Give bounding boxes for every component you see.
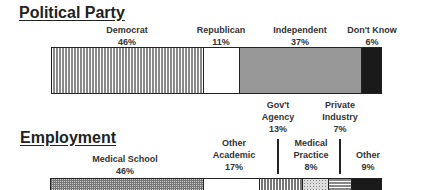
political-party-bar: [51, 47, 382, 94]
govt-agency-segment: [260, 179, 303, 190]
political-party-title: Political Party: [19, 4, 125, 22]
medical-practice-label: Medical Practice 8%: [293, 137, 328, 173]
medical-practice-segment: [303, 179, 329, 190]
private-industry-label: Private Industry 7%: [322, 99, 358, 135]
private-industry-segment: [329, 179, 352, 190]
dont-know-label: Don't Know 6%: [347, 24, 397, 48]
medical-school-label: Medical School 46%: [92, 153, 158, 177]
other-academic-label: Other Academic 17%: [213, 137, 256, 173]
employment-title: Employment: [20, 129, 116, 147]
democrat-segment: [52, 48, 204, 93]
medical-school-segment: [51, 179, 204, 190]
other-label: Other 9%: [356, 149, 380, 173]
republican-label: Republican 11%: [197, 24, 246, 48]
other-academic-segment: [204, 179, 260, 190]
dont-know-segment: [362, 48, 381, 93]
govt-agency-label: Gov't Agency 13%: [262, 99, 295, 135]
govt-agency-leader-line: [277, 139, 279, 174]
republican-segment: [204, 48, 240, 93]
private-industry-leader-line: [339, 139, 341, 174]
other-segment: [352, 179, 381, 190]
democrat-label: Democrat 46%: [106, 24, 148, 48]
independent-label: Independent 37%: [273, 24, 327, 48]
independent-segment: [240, 48, 362, 93]
employment-bar: [50, 178, 382, 190]
